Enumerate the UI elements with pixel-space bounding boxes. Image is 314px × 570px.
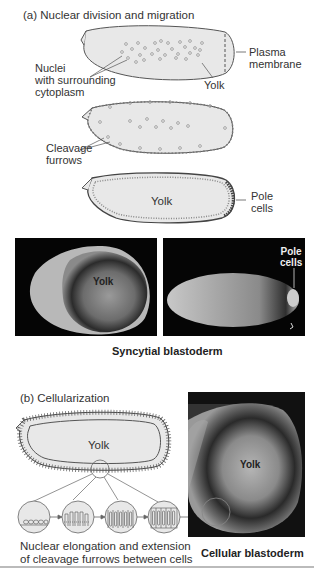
pole-cells-label: Pole cells (251, 190, 273, 214)
yolk-label-stage3: Yolk (151, 195, 172, 207)
micrograph-whole-embryo: Pole cells (163, 238, 305, 336)
nuclei-label: Nuclei with surrounding cytoplasm (35, 62, 116, 98)
micrograph-cellular-blastoderm: Yolk (188, 392, 305, 537)
plasma-membrane-label: Plasma membrane (249, 46, 302, 70)
cellularization-yolk-label: Yolk (88, 439, 109, 451)
yolk-label-stage1: Yolk (204, 79, 224, 91)
syncytial-blastoderm-caption: Syncytial blastoderm (112, 345, 223, 357)
bottom-divider (0, 566, 314, 568)
micrograph-cross-section: Yolk (15, 238, 157, 336)
cellular-yolk-label: Yolk (240, 459, 260, 470)
panel-b-title: (b) Cellularization (20, 392, 109, 404)
cleavage-furrows-label: Cleavage furrows (46, 142, 92, 166)
micrograph-yolk-label: Yolk (93, 276, 113, 287)
cellular-blastoderm-caption: Cellular blastoderm (201, 547, 304, 559)
micrograph-pole-cells-label: Pole cells (280, 246, 302, 268)
sequence-caption: Nuclear elongation and extension of clea… (20, 540, 193, 566)
